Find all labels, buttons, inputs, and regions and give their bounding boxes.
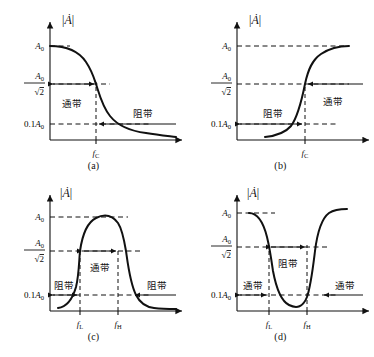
panel-caption-d: (d)	[187, 331, 374, 342]
ytick-sqrt2: √2	[35, 254, 44, 264]
region-label-stopband: 阻带	[278, 258, 298, 269]
ytick-A0-num: A0	[34, 71, 44, 82]
region-label-passband-right: 通带	[335, 280, 355, 291]
panel-c-band-pass: |Ȧ| A0 A0 √2 0.1A0 通带 阻带 阻带	[0, 179, 187, 357]
ytick-A0: A0	[34, 212, 44, 223]
panel-a-low-pass: |Ȧ| A0 A0 √2 0.1A0 通带 阻带 fC	[0, 0, 187, 178]
response-curve-high-pass	[265, 46, 349, 137]
filter-response-figure: |Ȧ| A0 A0 √2 0.1A0 通带 阻带 fC	[0, 0, 374, 357]
region-label-stopband: 阻带	[263, 108, 283, 119]
region-label-stopband-right: 阻带	[147, 280, 167, 291]
panel-caption-b: (b)	[187, 160, 374, 171]
ytick-A0-num: A0	[34, 238, 44, 249]
ytick-A0: A0	[221, 208, 231, 219]
ytick-A0: A0	[34, 41, 44, 52]
y-axis-label: |Ȧ|	[249, 13, 261, 27]
panel-caption-a: (a)	[0, 160, 187, 171]
xtick-fc: fC	[302, 148, 309, 159]
ytick-sqrt2: √2	[35, 87, 44, 97]
xtick-fc: fC	[93, 148, 100, 159]
y-axis-label: |Ȧ|	[247, 186, 259, 200]
ytick-0.1A0: 0.1A0	[24, 290, 44, 301]
ytick-sqrt2: √2	[222, 87, 231, 97]
region-label-passband: 通带	[90, 262, 110, 273]
response-curve-band-stop	[249, 209, 347, 307]
y-axis-label: |Ȧ|	[60, 186, 72, 200]
ytick-0.1A0: 0.1A0	[24, 119, 44, 130]
region-label-stopband-left: 阻带	[54, 280, 74, 291]
xtick-fH: fH	[114, 319, 122, 330]
ytick-A0: A0	[221, 41, 231, 52]
xtick-fL: fL	[77, 319, 84, 330]
region-label-passband: 通带	[62, 98, 82, 109]
ytick-A0-num: A0	[221, 71, 231, 82]
response-curve-low-pass	[50, 46, 176, 137]
region-label-stopband: 阻带	[133, 108, 153, 119]
ytick-0.1A0: 0.1A0	[211, 290, 231, 301]
region-label-passband-left: 通带	[243, 280, 263, 291]
region-label-passband: 通带	[323, 96, 343, 107]
xtick-fL: fL	[266, 319, 273, 330]
panel-d-band-stop: |Ȧ| A0 A0 √2 0.1A0 阻带 通带 通带	[187, 179, 374, 357]
y-axis-label: |Ȧ|	[62, 13, 74, 27]
ytick-sqrt2: √2	[222, 250, 231, 260]
xtick-fH: fH	[303, 319, 311, 330]
panel-b-high-pass: |Ȧ| A0 A0 √2 0.1A0 阻带 通带 fC (b)	[187, 0, 374, 178]
ytick-0.1A0: 0.1A0	[211, 119, 231, 130]
panel-caption-c: (c)	[0, 331, 187, 342]
ytick-A0-num: A0	[221, 234, 231, 245]
